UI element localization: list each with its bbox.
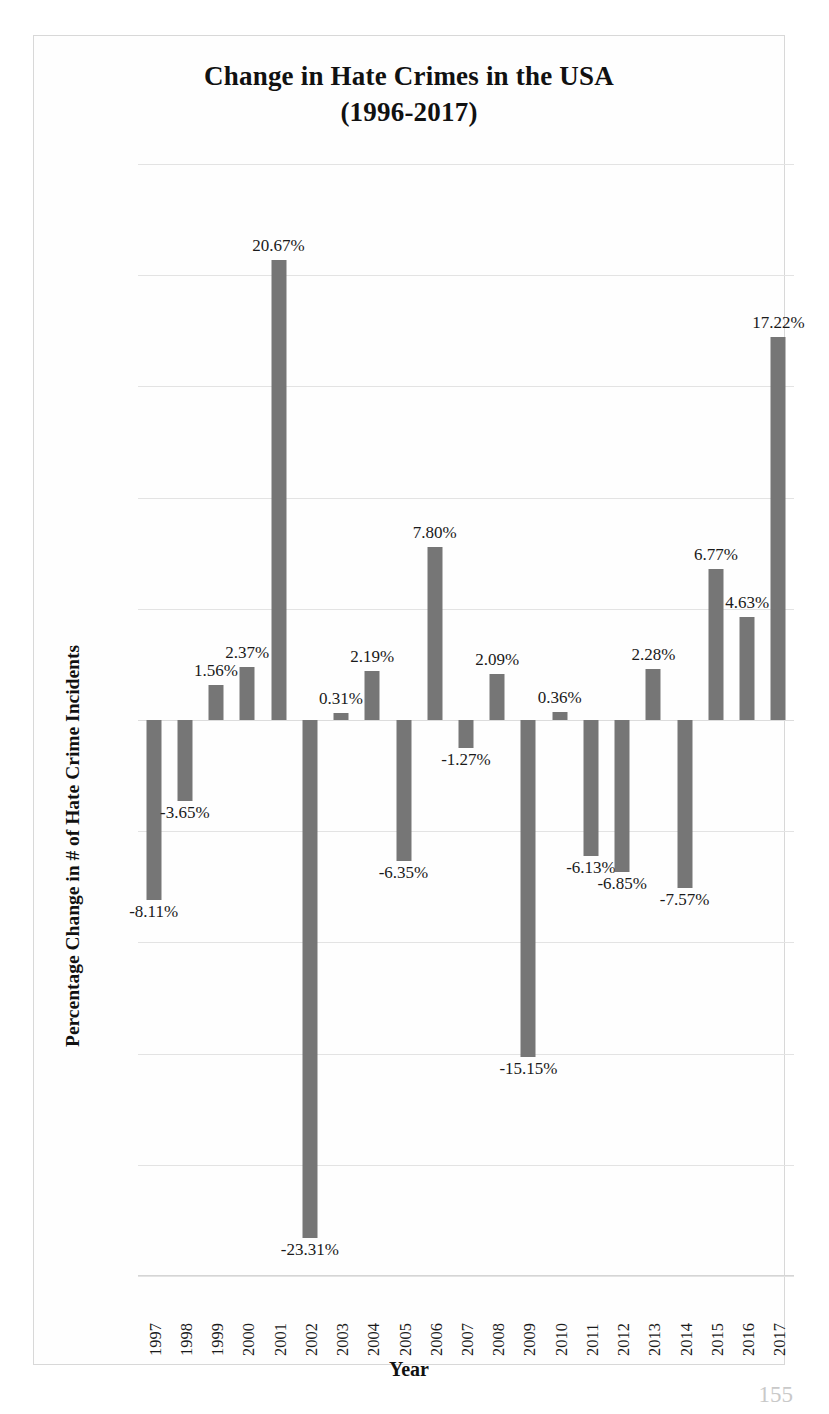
bar-group: -7.57% [669, 164, 700, 1276]
bar-group: -15.15% [513, 164, 544, 1276]
gridline [138, 1276, 794, 1277]
x-tick-text: 1997 [146, 1323, 166, 1356]
bar-group: 1.56% [200, 164, 231, 1276]
x-tick-text: 1998 [177, 1323, 197, 1356]
bar[interactable] [302, 720, 317, 1238]
page-number: 155 [759, 1382, 794, 1408]
bar[interactable] [209, 685, 224, 720]
plot-area: -8.11%-3.65%1.56%2.37%20.67%-23.31%0.31%… [138, 164, 794, 1276]
chart-title-line-2: (1996-2017) [34, 94, 784, 130]
bar[interactable] [490, 674, 505, 720]
x-tick-text: 2015 [708, 1323, 728, 1356]
bar-group: 17.22% [763, 164, 794, 1276]
x-tick-text: 2005 [396, 1323, 416, 1356]
x-tick-text: 2006 [427, 1323, 447, 1356]
bar-group: -8.11% [138, 164, 169, 1276]
bar[interactable] [458, 720, 473, 748]
chart-title: Change in Hate Crimes in the USA (1996-2… [34, 58, 784, 131]
bar-group: 0.31% [325, 164, 356, 1276]
bar[interactable] [240, 667, 255, 720]
bar[interactable] [771, 337, 786, 720]
x-tick-text: 2017 [770, 1323, 790, 1356]
x-tick-text: 2003 [333, 1323, 353, 1356]
bar-group: -6.35% [388, 164, 419, 1276]
x-tick-text: 2000 [239, 1323, 259, 1356]
x-axis-line [138, 1275, 794, 1276]
x-tick-text: 2004 [364, 1323, 384, 1356]
bar-group: -6.13% [575, 164, 606, 1276]
bar-group: -23.31% [294, 164, 325, 1276]
bar[interactable] [646, 669, 661, 720]
x-axis-tick-labels: 1997199819992000200120022003200420052006… [138, 1280, 794, 1362]
bar-value-label: 17.22% [752, 313, 804, 333]
x-tick-text: 2010 [552, 1323, 572, 1356]
x-tick-text: 1999 [208, 1323, 228, 1356]
x-tick-text: 2014 [677, 1323, 697, 1356]
bar[interactable] [615, 720, 630, 872]
bar[interactable] [552, 712, 567, 720]
bar[interactable] [427, 547, 442, 720]
bar[interactable] [583, 720, 598, 856]
bar-group: 20.67% [263, 164, 294, 1276]
bar[interactable] [177, 720, 192, 801]
bar-group: -6.85% [607, 164, 638, 1276]
x-tick-text: 2013 [645, 1323, 665, 1356]
bar[interactable] [146, 720, 161, 900]
bar-group: 2.09% [482, 164, 513, 1276]
x-tick-text: 2016 [739, 1323, 759, 1356]
chart-frame: Change in Hate Crimes in the USA (1996-2… [33, 35, 785, 1365]
bar-group: 6.77% [700, 164, 731, 1276]
bar[interactable] [334, 713, 349, 720]
bar[interactable] [521, 720, 536, 1057]
x-tick-text: 2009 [520, 1323, 540, 1356]
x-tick-text: 2012 [614, 1323, 634, 1356]
bar[interactable] [365, 671, 380, 720]
bar[interactable] [677, 720, 692, 888]
bar-group: 0.36% [544, 164, 575, 1276]
chart-title-line-1: Change in Hate Crimes in the USA [204, 61, 614, 91]
bar[interactable] [271, 260, 286, 720]
bar-group: 2.28% [638, 164, 669, 1276]
x-tick-text: 2007 [458, 1323, 478, 1356]
x-tick-text: 2002 [302, 1323, 322, 1356]
bar[interactable] [740, 617, 755, 720]
bar[interactable] [396, 720, 411, 861]
bar-group: 7.80% [419, 164, 450, 1276]
bar-group: 2.19% [357, 164, 388, 1276]
bar-group: -3.65% [169, 164, 200, 1276]
x-tick-text: 2008 [489, 1323, 509, 1356]
bar[interactable] [708, 569, 723, 720]
x-axis-title: Year [34, 1358, 784, 1381]
x-tick-text: 2011 [583, 1324, 603, 1356]
bar-group: -1.27% [450, 164, 481, 1276]
bar-group: 2.37% [232, 164, 263, 1276]
x-tick-text: 2001 [271, 1323, 291, 1356]
y-axis-title: Percentage Change in # of Hate Crime Inc… [62, 466, 84, 1226]
